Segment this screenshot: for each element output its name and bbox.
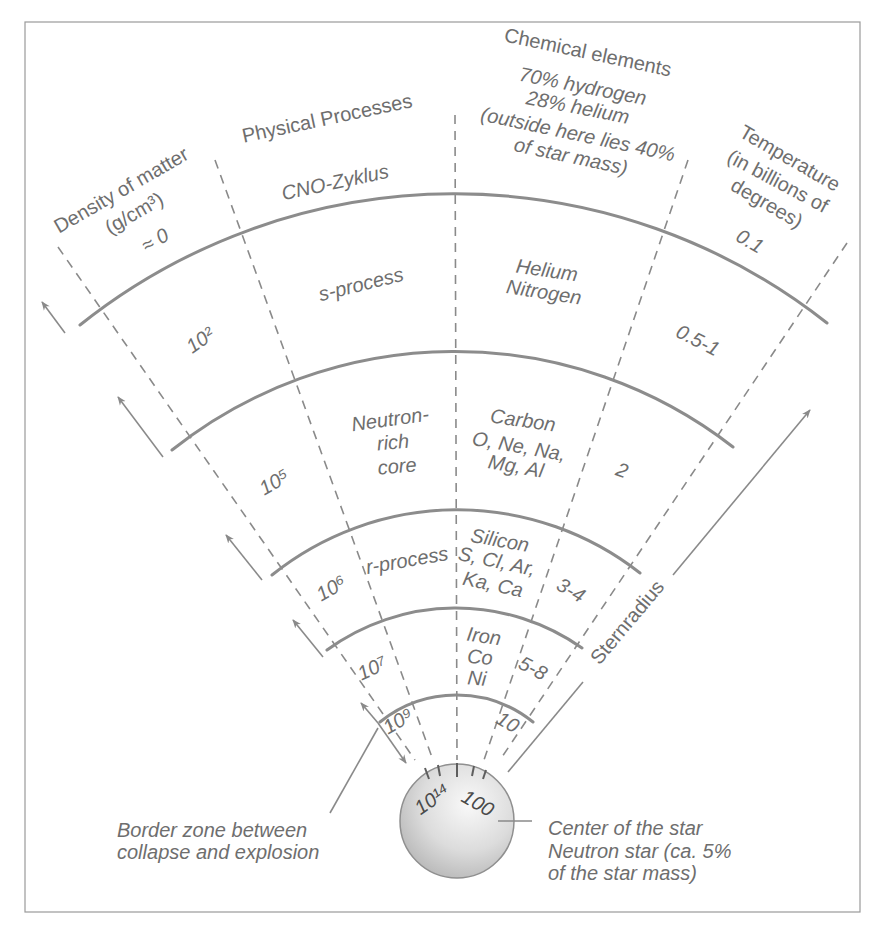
center-note-line: Center of the star xyxy=(548,817,704,839)
center-note: Center of the star Neutron star (ca. 5% … xyxy=(548,817,731,884)
border-zone-leader-line xyxy=(330,728,378,813)
divider-processes-elements xyxy=(455,115,457,760)
density-value: ≈ 0 xyxy=(138,224,173,257)
center-note-line: of the star mass) xyxy=(548,862,697,884)
element-label: Ni xyxy=(467,666,488,690)
shell-4: 10⁷ Iron Co Ni 5-8 xyxy=(354,623,551,690)
density-value: 10⁷ xyxy=(354,652,391,685)
shell-boundaries xyxy=(80,194,827,722)
density-value: 10² xyxy=(182,322,219,357)
star-radius-arrow-icon xyxy=(673,410,810,575)
star-structure-diagram: Density of matter (g/cm³) Physical Proce… xyxy=(0,0,876,935)
divider-left-outer xyxy=(58,247,415,760)
center-note-line: Neutron star (ca. 5% xyxy=(548,840,731,862)
temperature-value: 5-8 xyxy=(515,652,551,685)
temperature-value: 0.5-1 xyxy=(673,320,724,360)
process-label: core xyxy=(377,453,418,478)
shell-3: 10⁶ r-process Silicon S, Cl, Ar, Ka, Ca … xyxy=(312,524,589,607)
arrow-up-icon xyxy=(361,703,378,723)
arrow-up-icon xyxy=(42,302,65,333)
temperature-value: 0.1 xyxy=(732,225,767,258)
column-dividers xyxy=(58,115,847,760)
process-label: r-process xyxy=(364,542,450,578)
neutron-star xyxy=(400,763,532,878)
star-radius-label: Sternradius xyxy=(586,576,669,668)
arrow-up-icon xyxy=(293,620,323,657)
processes-header: Physical Processes xyxy=(240,89,414,147)
arrow-up-icon xyxy=(226,535,262,580)
expansion-arrows xyxy=(42,302,406,763)
border-zone-line: Border zone between xyxy=(117,819,307,841)
density-value: 10⁶ xyxy=(312,571,349,605)
column-headers: Density of matter (g/cm³) Physical Proce… xyxy=(50,24,844,239)
shell-boundary-1 xyxy=(80,194,827,325)
shell-1: 10² s-process Helium Nitrogen 0.5-1 xyxy=(182,255,723,360)
arrow-up-icon xyxy=(118,397,163,457)
temperature-value: 2 xyxy=(612,457,631,482)
neutron-star-circle xyxy=(400,764,514,878)
process-label: s-process xyxy=(316,263,405,305)
star-radius-line xyxy=(508,682,583,772)
process-label: rich xyxy=(376,430,410,455)
shell-2: 10⁵ Neutron- rich core Carbon O, Ne, Na,… xyxy=(255,403,631,500)
border-zone-note: Border zone between collapse and explosi… xyxy=(117,819,319,863)
divider-right-outer xyxy=(500,243,847,760)
shell-boundary-4 xyxy=(327,608,582,650)
density-value: 10⁵ xyxy=(255,465,293,499)
border-zone-line: collapse and explosion xyxy=(117,841,319,863)
temperature-value: 3-4 xyxy=(553,573,589,607)
process-label: CNO-Zyklus xyxy=(279,160,390,204)
shell-boundary-2 xyxy=(172,351,733,450)
